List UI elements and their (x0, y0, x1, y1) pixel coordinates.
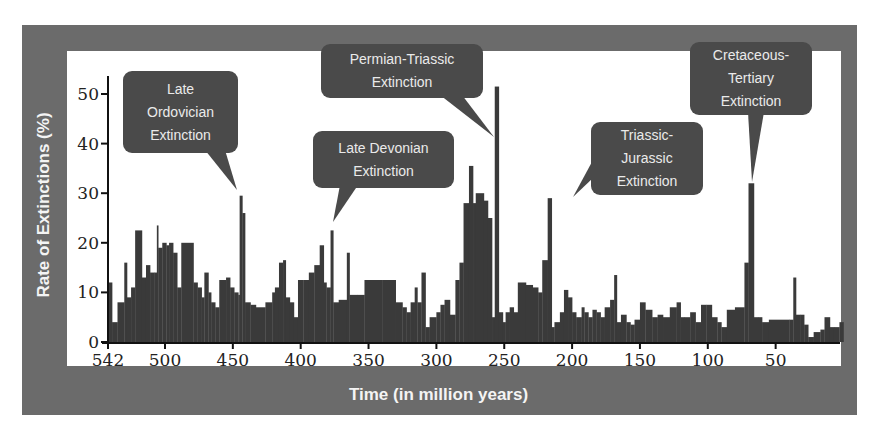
bar (193, 282, 197, 342)
bar (256, 307, 266, 342)
callout-pointer (205, 150, 237, 190)
bar (597, 312, 601, 342)
bar (426, 327, 430, 342)
bar (464, 203, 470, 342)
bar (495, 87, 499, 342)
bar (331, 230, 334, 342)
bar (701, 305, 707, 342)
bar (614, 275, 617, 342)
bar (242, 213, 245, 342)
bar (124, 263, 127, 342)
bar (402, 307, 406, 342)
bar (450, 315, 456, 342)
bar (793, 278, 796, 342)
bar (484, 201, 488, 342)
bar (617, 322, 621, 342)
bar (459, 263, 463, 342)
bar (275, 287, 279, 342)
bar (131, 287, 135, 342)
bar (518, 282, 526, 342)
bar (554, 322, 560, 342)
x-axis-label: Time (in million years) (0, 385, 877, 405)
callout-line: Extinction (591, 170, 703, 193)
bar (735, 307, 745, 342)
bar (286, 297, 290, 342)
bar (473, 203, 476, 342)
bar (333, 302, 339, 342)
bar (440, 305, 444, 342)
bar (804, 325, 808, 342)
callout-line: Extinction (321, 71, 483, 94)
bar (839, 322, 843, 342)
bar (320, 245, 324, 342)
bar (690, 312, 696, 342)
callout-late-devonian: Late Devonian Extinction (313, 131, 454, 188)
bar (135, 230, 142, 342)
bar (476, 193, 484, 342)
x-tick-label: 250 (488, 350, 520, 370)
bar (430, 317, 437, 342)
callout-line: Extinction (123, 124, 238, 147)
callout-cretaceous-tertiary: Cretaceous- Tertiary Extinction (690, 42, 812, 115)
callout-line: Triassic- (591, 124, 703, 147)
bar (592, 310, 596, 342)
bar (339, 300, 347, 342)
bar (510, 307, 514, 342)
bar (658, 315, 664, 342)
bar (568, 297, 572, 342)
bar (350, 295, 358, 342)
bar (112, 322, 118, 342)
bar (727, 310, 735, 342)
callout-pointer (573, 160, 593, 197)
bar (758, 317, 762, 342)
bar (215, 307, 219, 342)
bar (492, 317, 495, 342)
bar (706, 305, 712, 342)
x-tick-label: 500 (149, 350, 181, 370)
bar (382, 280, 396, 342)
bar (240, 196, 243, 342)
bar (499, 312, 503, 342)
bar (542, 260, 548, 342)
bar (744, 263, 748, 342)
y-tick-label: 0 (88, 332, 99, 352)
bar (552, 327, 555, 342)
bar (358, 295, 365, 342)
callout-triassic-jurassic: Triassic- Jurassic Extinction (591, 122, 703, 195)
bar (588, 317, 592, 342)
bar (533, 287, 539, 342)
bar (364, 280, 382, 342)
bar (621, 315, 627, 342)
x-tick-label: 542 (92, 350, 124, 370)
callout-line: Extinction (690, 90, 812, 113)
bar (584, 312, 588, 342)
bar (469, 166, 473, 342)
bar (610, 300, 614, 342)
callout-late-ordovician: Late Ordovician Extinction (123, 71, 238, 153)
bar (572, 312, 576, 342)
callout-line: Cretaceous- (690, 44, 812, 67)
bar (298, 280, 304, 342)
bar (166, 245, 169, 342)
callout-line: Ordovician (123, 101, 238, 124)
bar (279, 263, 283, 342)
bar (417, 302, 421, 342)
callout-line: Extinction (313, 160, 454, 183)
bar (154, 273, 157, 342)
bar (142, 278, 146, 342)
bar (789, 320, 793, 342)
bar (605, 307, 611, 342)
bar (314, 265, 320, 342)
bar (762, 322, 769, 342)
bar (294, 317, 298, 342)
bar (150, 273, 154, 342)
bar (800, 315, 804, 342)
bar (514, 312, 518, 342)
callout-line: Late (123, 78, 238, 101)
bar (326, 287, 330, 342)
bar (548, 198, 552, 342)
bar (576, 317, 582, 342)
bar (754, 317, 758, 342)
bar (526, 285, 533, 342)
bar (407, 312, 411, 342)
